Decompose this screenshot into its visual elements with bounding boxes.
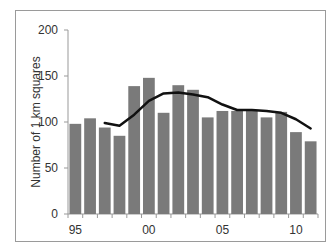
bar-series [69,78,316,214]
bar [69,124,81,214]
x-axis: 95000510 [68,214,318,237]
y-tick-label: 50 [45,161,59,175]
x-tick-label: 00 [142,223,156,237]
bar [187,90,199,214]
bar [172,85,184,214]
bar [305,141,317,214]
x-tick-label: 05 [216,223,230,237]
bar [217,111,229,214]
bar [261,117,273,214]
bar [99,128,111,214]
bar [128,86,140,214]
bar [275,112,287,214]
bar [202,117,214,214]
y-tick-label: 0 [51,207,58,221]
bar [231,111,243,214]
y-axis-title: Number of 1 km squares [29,56,43,187]
y-tick-label: 200 [38,23,58,37]
x-tick-label: 10 [289,223,303,237]
bar [84,118,96,214]
bar [290,132,302,214]
bar [246,111,258,214]
bar [114,136,126,214]
bar-line-chart: 050100150200 95000510 Number of 1 km squ… [0,0,335,251]
x-tick-label: 95 [69,223,83,237]
bar [158,113,170,214]
